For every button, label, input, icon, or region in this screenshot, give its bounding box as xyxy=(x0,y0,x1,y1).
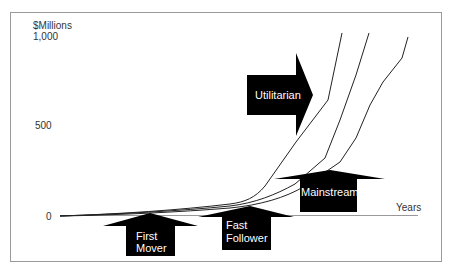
mainstream-label: Mainstream xyxy=(301,186,358,198)
diagram-graphics xyxy=(0,0,450,270)
utilitarian-label: Utilitarian xyxy=(255,89,301,101)
fast-follower-label-line1: Fast xyxy=(226,219,247,231)
first-mover-label-line2: Mover xyxy=(136,242,167,254)
fast-follower-label-line2: Follower xyxy=(226,232,268,244)
first-mover-label-line1: First xyxy=(136,230,157,242)
